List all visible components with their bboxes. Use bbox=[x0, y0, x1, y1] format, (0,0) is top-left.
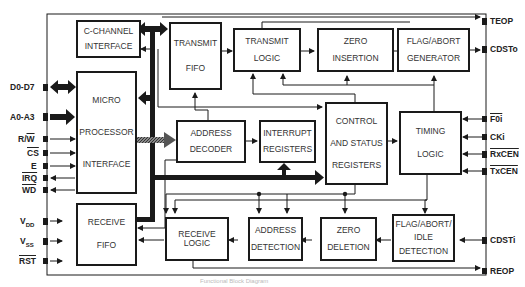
address-decoder-block: ADDRESS DECODER bbox=[176, 120, 246, 163]
transmit-logic-block: TRANSMIT LOGIC bbox=[233, 28, 301, 72]
block-label: ZERO bbox=[344, 37, 368, 46]
pin-vdd: VDD bbox=[20, 216, 34, 228]
timing-logic-block: TIMING LOGIC bbox=[399, 111, 462, 175]
pin-e: E bbox=[31, 161, 37, 171]
flag-abort-generator-block: FLAG/ABORT GENERATOR bbox=[397, 28, 470, 72]
block-label: REGISTERS bbox=[332, 161, 381, 170]
block-label: RECEIVE bbox=[88, 218, 125, 227]
pin-cki: CKi bbox=[490, 132, 505, 142]
block-label: DETECTION bbox=[251, 243, 300, 252]
zero-insertion-block: ZERO INSERTION bbox=[317, 28, 394, 72]
block-label: FIFO bbox=[186, 64, 205, 73]
receive-fifo-block: RECEIVE FIFO bbox=[76, 203, 137, 266]
block-label: FIFO bbox=[97, 241, 116, 250]
interrupt-registers-block: INTERRUPT REGISTERS bbox=[259, 120, 316, 163]
block-label: LOGIC bbox=[417, 150, 443, 159]
block-diagram: C-CHANNEL INTERFACE TRANSMIT FIFO TRANSM… bbox=[0, 0, 525, 287]
block-label: INSERTION bbox=[332, 54, 378, 63]
block-label: DECODER bbox=[190, 145, 233, 154]
zero-deletion-block: ZERO DELETION bbox=[320, 217, 377, 261]
pin-rxcen: RxCEN bbox=[490, 149, 519, 159]
pin-vss: VSS bbox=[20, 236, 34, 248]
block-label: MICRO bbox=[92, 96, 120, 105]
block-label: IDLE bbox=[414, 233, 433, 242]
block-label: CONTROL bbox=[336, 117, 378, 126]
block-label: INTERFACE bbox=[85, 42, 133, 51]
block-label: TRANSMIT bbox=[245, 37, 288, 46]
block-label: INTERFACE bbox=[83, 160, 131, 169]
block-label: DELETION bbox=[327, 243, 370, 252]
pin-a0-a3: A0-A3 bbox=[10, 112, 35, 122]
pin-teop: TEOP bbox=[490, 16, 513, 26]
block-label: FLAG/ABORT bbox=[407, 37, 461, 46]
block-label: GENERATOR bbox=[407, 54, 460, 63]
block-label: FLAG/ABORT/ bbox=[395, 220, 451, 229]
control-status-registers-block: CONTROL AND STATUS REGISTERS bbox=[325, 102, 388, 185]
block-label: RECEIVE LOGIC bbox=[167, 230, 227, 249]
pin-irq: IRQ bbox=[22, 173, 37, 183]
c-channel-interface-block: C-CHANNEL INTERFACE bbox=[76, 20, 141, 58]
figure-caption: Functional Block Diagram bbox=[200, 278, 268, 284]
pin-txcen: TxCEN bbox=[490, 166, 518, 176]
block-label: ADDRESS bbox=[255, 226, 296, 235]
block-label: LOGIC bbox=[254, 54, 280, 63]
flag-abort-idle-detection-block: FLAG/ABORT/ IDLE DETECTION bbox=[392, 214, 455, 262]
address-detection-block: ADDRESS DETECTION bbox=[248, 217, 303, 261]
pin-rst: RST bbox=[19, 256, 36, 266]
block-label: DETECTION bbox=[399, 247, 448, 256]
block-label: TRANSMIT bbox=[174, 39, 217, 48]
block-label: ADDRESS bbox=[190, 129, 231, 138]
block-label: C-CHANNEL bbox=[84, 27, 134, 36]
pin-cdsto: CDSTo bbox=[490, 44, 518, 54]
block-label: PROCESSOR bbox=[79, 128, 133, 137]
transmit-fifo-block: TRANSMIT FIFO bbox=[169, 22, 222, 90]
block-label: TIMING bbox=[416, 127, 446, 136]
block-label: REGISTERS bbox=[263, 145, 312, 154]
pin-cs: CS bbox=[27, 148, 39, 158]
pin-reop: REOP bbox=[490, 266, 514, 276]
pin-d0-d7: D0-D7 bbox=[10, 82, 35, 92]
pin-wd: WD bbox=[22, 185, 36, 195]
block-label: INTERRUPT bbox=[263, 129, 312, 138]
pin-cdsti: CDSTi bbox=[490, 235, 515, 245]
block-label: ZERO bbox=[337, 226, 361, 235]
pin-rw: R/W bbox=[18, 134, 35, 144]
pin-f0i: F0i bbox=[490, 114, 502, 124]
microprocessor-interface-block: MICRO PROCESSOR INTERFACE bbox=[76, 71, 137, 194]
receive-logic-block: RECEIVE LOGIC bbox=[165, 217, 229, 261]
block-label: AND STATUS bbox=[330, 139, 383, 148]
